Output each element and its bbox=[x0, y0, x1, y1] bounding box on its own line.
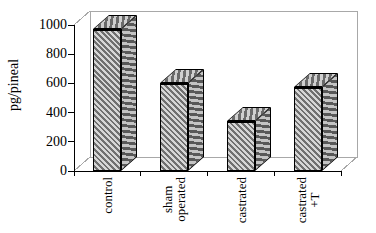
chart-frame-line bbox=[74, 157, 90, 171]
chart-frame-line bbox=[74, 11, 90, 25]
y-axis-title: pg/pineal bbox=[7, 59, 21, 111]
back-wall bbox=[90, 11, 357, 157]
axes-and-3d-frame bbox=[0, 0, 376, 233]
pineal-bar-chart-figure: 02004006008001000 controlshamoperatedcas… bbox=[0, 0, 376, 233]
chart-frame-line bbox=[341, 157, 357, 171]
